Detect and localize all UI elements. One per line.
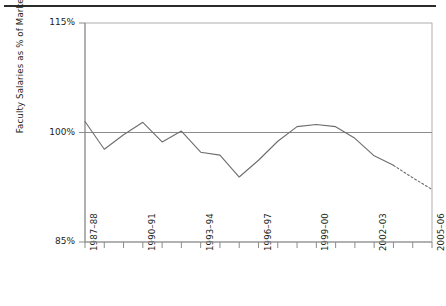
data-line-actual [85,122,393,177]
x-axis [85,242,432,248]
y-axis [79,23,85,242]
data-line-projected [393,165,432,189]
